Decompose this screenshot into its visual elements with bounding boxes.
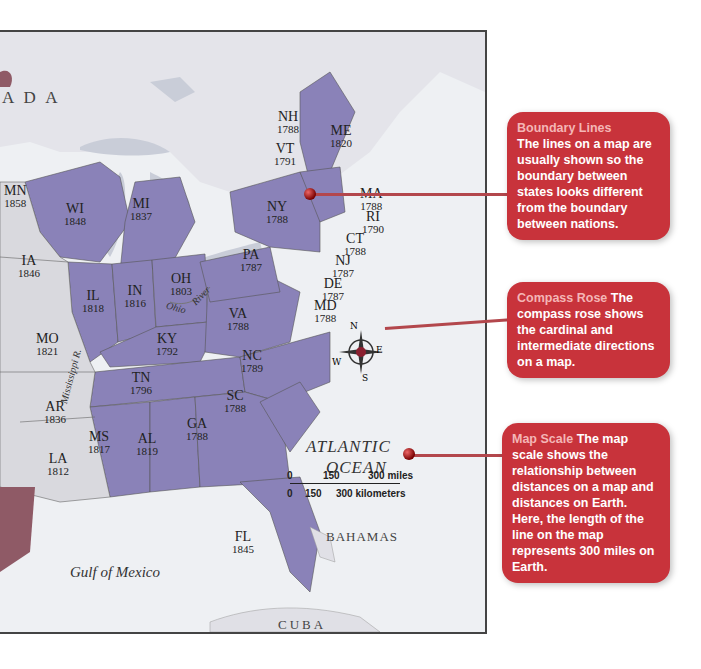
compass-e: E	[376, 345, 383, 355]
callout-body: The lines on a map are usually shown so …	[517, 137, 652, 231]
state-label-ms: MS1817	[88, 430, 110, 455]
state-label-ga: GA1788	[186, 417, 208, 442]
gulf-of-mexico-label: Gulf of Mexico	[70, 564, 160, 581]
scale-miles-0: 0	[287, 470, 293, 481]
callout-body: The map scale shows the relationship bet…	[512, 432, 654, 574]
state-label-ky: KY1792	[156, 332, 178, 357]
scale-km-150: 150	[305, 488, 322, 499]
bahamas-label: BAHAMAS	[326, 529, 398, 545]
state-label-mi: MI1837	[130, 197, 152, 222]
state-label-vt: VT1791	[274, 142, 296, 167]
scale-km-300: 300 kilometers	[336, 488, 406, 499]
map-frame: A D A MN1858 WI1848 MI1837 IA1846 IL1818…	[0, 30, 487, 634]
scale-miles-300: 300 miles	[368, 470, 413, 481]
state-label-va: VA1788	[227, 307, 249, 332]
state-label-ar: AR1836	[44, 400, 66, 425]
state-label-la: LA1812	[47, 452, 69, 477]
callout-compass-rose: Compass Rose The compass rose shows the …	[507, 282, 670, 378]
state-label-il: IL1818	[82, 289, 104, 314]
state-label-tn: TN1796	[130, 371, 152, 396]
state-label-oh: OH1803	[170, 272, 192, 297]
state-label-al: AL1819	[136, 432, 158, 457]
state-label-fl: FL1845	[232, 530, 254, 555]
compass-n: N	[350, 321, 358, 331]
callout-boundary-lines: Boundary Lines The lines on a map are us…	[507, 112, 670, 240]
state-label-me: ME1820	[330, 124, 352, 149]
state-label-nc: NC1789	[241, 349, 263, 374]
scale-marker-dot	[403, 448, 415, 460]
scale-miles-150: 150	[323, 470, 340, 481]
state-label-wi: WI1848	[64, 202, 86, 227]
region-label-canada: A D A	[2, 88, 60, 108]
callout-map-scale: Map Scale The map scale shows the relati…	[502, 423, 670, 583]
compass-s: S	[362, 373, 368, 383]
state-label-md: MD1788	[314, 299, 337, 324]
state-label-ia: IA1846	[18, 254, 40, 279]
state-label-ny: NY1788	[266, 200, 288, 225]
scale-leader-line	[410, 454, 506, 457]
state-label-pa: PA1787	[240, 248, 262, 273]
state-label-mn: MN1858	[4, 184, 27, 209]
state-label-nh: NH1788	[277, 110, 299, 135]
callout-heading: Map Scale	[512, 432, 573, 446]
compass-w: W	[332, 357, 341, 367]
state-label-sc: SC1788	[224, 389, 246, 414]
state-label-in: IN1816	[124, 284, 146, 309]
state-label-mo: MO1821	[36, 332, 59, 357]
atlantic-label-1: ATLANTIC	[306, 437, 391, 457]
callout-heading: Boundary Lines	[517, 121, 611, 135]
cuba-label: CUBA	[278, 617, 326, 633]
callout-heading: Compass Rose	[517, 291, 607, 305]
compass-rose: N W E S	[336, 327, 386, 377]
scale-km-0: 0	[287, 488, 293, 499]
boundary-marker-dot	[304, 188, 316, 200]
